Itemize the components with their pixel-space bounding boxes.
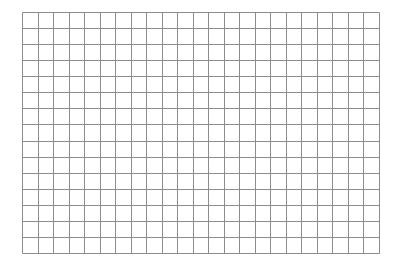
grid-canvas (22, 12, 380, 254)
grid-lines (22, 12, 380, 254)
